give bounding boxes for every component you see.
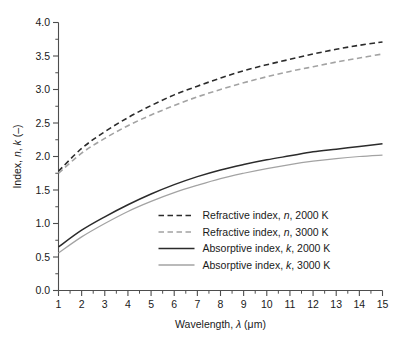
x-tick-label: 14 — [354, 298, 366, 310]
x-tick-label: 9 — [241, 298, 247, 310]
x-tick-label: 5 — [148, 298, 154, 310]
x-tick-label: 12 — [307, 298, 319, 310]
x-tick-label: 3 — [102, 298, 108, 310]
x-tick-label: 8 — [218, 298, 224, 310]
x-tick-label: 10 — [261, 298, 273, 310]
y-axis-title: Index, n, k (–) — [11, 124, 23, 188]
x-tick-label: 7 — [194, 298, 200, 310]
x-axis-title: Wavelength, λ (μm) — [175, 318, 266, 330]
series-line-1 — [59, 42, 383, 171]
legend-label-1: Refractive index, n, 2000 K — [203, 209, 329, 221]
y-tick-label: 3.0 — [35, 83, 50, 95]
y-tick-label: 2.0 — [35, 150, 50, 162]
chart-plot-area: 0.00.51.01.52.02.53.03.54.01234567891011… — [0, 0, 401, 341]
x-tick-label: 15 — [377, 298, 389, 310]
x-tick-label: 1 — [56, 298, 62, 310]
series-line-2 — [59, 54, 383, 173]
y-tick-label: 2.5 — [35, 117, 50, 129]
y-tick-label: 1.0 — [35, 217, 50, 229]
y-tick-label: 1.5 — [35, 184, 50, 196]
x-tick-label: 11 — [284, 298, 295, 310]
y-tick-label: 3.5 — [35, 50, 50, 62]
y-tick-label: 0.0 — [35, 284, 50, 296]
legend-label-2: Refractive index, n, 3000 K — [203, 226, 329, 238]
y-tick-label: 0.5 — [35, 251, 50, 263]
legend-label-3: Absorptive index, k, 2000 K — [203, 242, 331, 254]
chart-figure: 0.00.51.01.52.02.53.03.54.01234567891011… — [0, 0, 401, 341]
x-tick-label: 6 — [171, 298, 177, 310]
x-tick-label: 4 — [125, 298, 131, 310]
x-tick-label: 2 — [79, 298, 85, 310]
y-tick-label: 4.0 — [35, 16, 50, 28]
legend-label-4: Absorptive index, k, 3000 K — [203, 259, 331, 271]
x-tick-label: 13 — [330, 298, 342, 310]
